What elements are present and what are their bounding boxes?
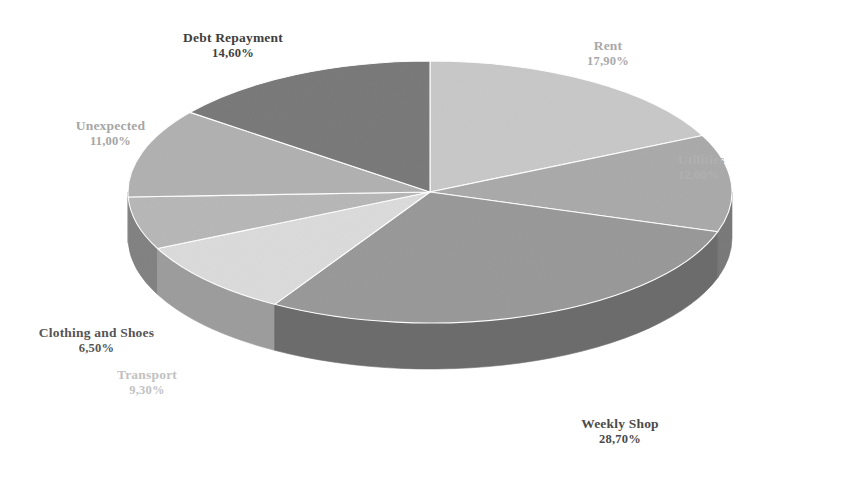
slice-label-unexpected: Unexpected 11,00% bbox=[38, 118, 183, 150]
slice-label-debt-repayment: Debt Repayment 14,60% bbox=[148, 30, 318, 62]
slice-label-name: Transport bbox=[72, 367, 222, 383]
slice-label-name: Debt Repayment bbox=[148, 30, 318, 46]
slice-label-name: Weekly Shop bbox=[540, 416, 700, 432]
slice-label-name: Rent bbox=[528, 38, 688, 54]
slice-label-value: 9,30% bbox=[72, 383, 222, 398]
slice-label-value: 12,00% bbox=[678, 168, 828, 183]
slice-label-name: Utilities bbox=[678, 152, 828, 168]
slice-label-clothing-and-shoes: Clothing and Shoes 6,50% bbox=[4, 325, 189, 357]
slice-label-weekly-shop: Weekly Shop 28,70% bbox=[540, 416, 700, 448]
slice-label-value: 28,70% bbox=[540, 432, 700, 447]
pie-top-faces bbox=[128, 61, 732, 323]
slice-label-value: 17,90% bbox=[528, 54, 688, 69]
slice-label-name: Clothing and Shoes bbox=[4, 325, 189, 341]
slice-label-utilities: Utilities 12,00% bbox=[678, 152, 828, 184]
slice-label-value: 11,00% bbox=[38, 134, 183, 149]
slice-label-transport: Transport 9,30% bbox=[72, 367, 222, 399]
pie-chart: Debt Repayment 14,60% Rent 17,90% Utilit… bbox=[0, 0, 852, 483]
pie-chart-canvas bbox=[0, 0, 852, 483]
slice-label-value: 14,60% bbox=[148, 46, 318, 61]
slice-label-rent: Rent 17,90% bbox=[528, 38, 688, 70]
slice-label-value: 6,50% bbox=[4, 341, 189, 356]
slice-label-name: Unexpected bbox=[38, 118, 183, 134]
